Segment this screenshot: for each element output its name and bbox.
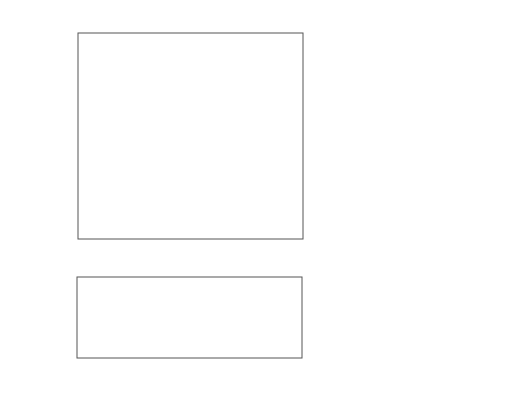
top-panel <box>78 33 303 239</box>
bottom-panel <box>77 277 302 358</box>
chart-canvas <box>0 0 510 418</box>
bottom-panel-frame <box>77 277 302 358</box>
top-panel-frame <box>78 33 303 239</box>
